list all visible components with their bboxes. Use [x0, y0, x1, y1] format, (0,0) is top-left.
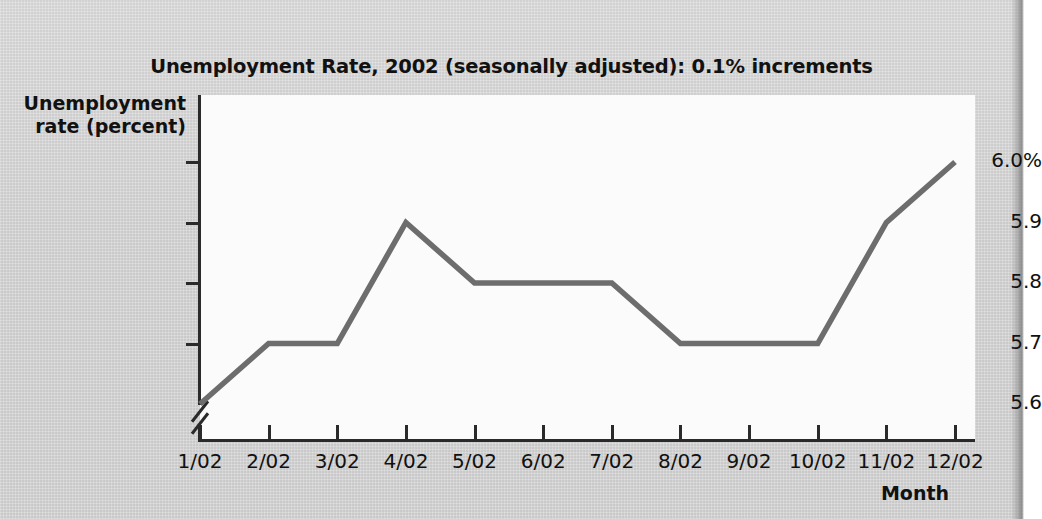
- y-axis-tick: [186, 222, 200, 225]
- y-axis-tick-label: 5.7: [882, 330, 1042, 354]
- y-axis-tick: [186, 343, 200, 346]
- y-axis-tick: [186, 282, 200, 285]
- x-axis-tick-label: 12/02: [910, 449, 1000, 473]
- x-axis-tick: [885, 425, 888, 440]
- x-axis-line: [198, 439, 975, 442]
- x-axis-tick: [748, 425, 751, 440]
- y-axis-title-line-2: rate (percent): [18, 115, 186, 138]
- x-axis-tick: [611, 425, 614, 440]
- x-axis-tick: [679, 425, 682, 440]
- x-axis-tick: [474, 425, 477, 440]
- page-root: the seasonally adjusted monthly rate for…: [0, 0, 1042, 519]
- x-axis-tick: [199, 425, 202, 440]
- y-axis-tick-label: 5.9: [882, 209, 1042, 233]
- x-axis-tick: [336, 425, 339, 440]
- y-axis-tick-label: 6.0%: [882, 148, 1042, 172]
- y-axis-title: Unemployment rate (percent): [18, 92, 186, 138]
- plot-area: [200, 95, 975, 440]
- y-axis-line: [198, 95, 201, 405]
- x-axis-title: Month: [855, 482, 975, 504]
- y-axis-tick-label: 5.8: [882, 269, 1042, 293]
- x-axis-tick: [542, 425, 545, 440]
- y-axis-tick-label: 5.6: [882, 390, 1042, 414]
- x-axis-tick: [817, 425, 820, 440]
- x-axis-tick: [405, 425, 408, 440]
- y-axis-tick: [186, 161, 200, 164]
- x-axis-tick: [268, 425, 271, 440]
- y-axis-title-line-1: Unemployment: [18, 92, 186, 115]
- x-axis-tick: [954, 425, 957, 440]
- chart-title: Unemployment Rate, 2002 (seasonally adju…: [0, 55, 1023, 78]
